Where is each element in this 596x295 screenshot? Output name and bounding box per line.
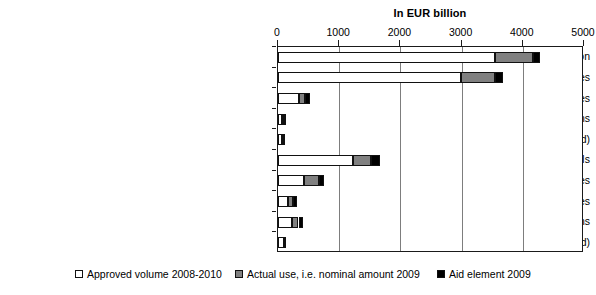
y-tick-mark-3 xyxy=(272,108,276,109)
bar-segment-5-1 xyxy=(353,155,371,166)
bar-group-9 xyxy=(278,237,582,248)
bar-segment-4-2 xyxy=(283,134,285,145)
x-tick-label-5000: 5000 xyxy=(558,26,596,38)
bar-group-1 xyxy=(278,72,582,83)
bar-segment-0-0 xyxy=(278,52,495,63)
y-tick-mark-9 xyxy=(272,231,276,232)
legend-item-1[interactable]: Actual use, i.e. nominal amount 2009 xyxy=(235,268,420,280)
legend-label-2: Aid element 2009 xyxy=(449,268,531,280)
x-tick-mark-5000 xyxy=(583,40,584,46)
bar-segment-3-2 xyxy=(284,114,286,125)
bar-group-6 xyxy=(278,175,582,186)
bar-segment-2-2 xyxy=(305,93,310,104)
bar-segment-9-2 xyxy=(284,237,286,248)
bar-chart: In EUR billion 010002000300040005000 Sch… xyxy=(0,0,596,295)
y-tick-mark-4 xyxy=(272,128,276,129)
bar-segment-8-0 xyxy=(278,217,292,228)
y-tick-mark-0 xyxy=(272,46,276,47)
bar-group-4 xyxy=(278,134,582,145)
bar-segment-1-0 xyxy=(278,72,461,83)
bar-segment-7-2 xyxy=(293,196,296,207)
bar-segment-5-2 xyxy=(371,155,380,166)
bar-group-0 xyxy=(278,52,582,63)
bar-segment-6-1 xyxy=(304,175,319,186)
legend-item-0[interactable]: Approved volume 2008-2010 xyxy=(75,268,222,280)
bar-segment-6-0 xyxy=(278,175,304,186)
bar-group-2 xyxy=(278,93,582,104)
legend-swatch-icon-0 xyxy=(75,270,83,278)
bar-segment-5-0 xyxy=(278,155,353,166)
y-tick-mark-8 xyxy=(272,211,276,212)
x-tick-label-2000: 2000 xyxy=(374,26,424,38)
bar-group-3 xyxy=(278,114,582,125)
x-tick-label-1000: 1000 xyxy=(313,26,363,38)
chart-title: In EUR billion xyxy=(277,7,583,19)
x-tick-label-3000: 3000 xyxy=(436,26,486,38)
bar-group-5 xyxy=(278,155,582,166)
bar-segment-1-2 xyxy=(495,72,503,83)
bar-segment-7-0 xyxy=(278,196,288,207)
bar-segment-6-2 xyxy=(319,175,324,186)
bar-segment-8-2 xyxy=(299,217,304,228)
bar-group-8 xyxy=(278,217,582,228)
bar-segment-0-2 xyxy=(533,52,540,63)
bar-group-7 xyxy=(278,196,582,207)
bar-segment-1-1 xyxy=(461,72,495,83)
y-tick-mark-6 xyxy=(272,170,276,171)
chart-legend: Approved volume 2008-2010Actual use, i.e… xyxy=(0,268,596,286)
bar-segment-0-1 xyxy=(495,52,533,63)
x-tick-label-4000: 4000 xyxy=(497,26,547,38)
x-tick-label-0: 0 xyxy=(252,26,302,38)
y-tick-mark-2 xyxy=(272,87,276,88)
legend-label-0: Approved volume 2008-2010 xyxy=(87,268,222,280)
legend-swatch-icon-2 xyxy=(437,270,445,278)
legend-swatch-icon-1 xyxy=(235,270,243,278)
y-tick-mark-7 xyxy=(272,190,276,191)
bar-segment-2-0 xyxy=(278,93,299,104)
legend-item-2[interactable]: Aid element 2009 xyxy=(437,268,531,280)
legend-label-1: Actual use, i.e. nominal amount 2009 xyxy=(247,268,420,280)
plot-area xyxy=(277,46,583,252)
y-tick-mark-1 xyxy=(272,67,276,68)
y-tick-mark-5 xyxy=(272,149,276,150)
